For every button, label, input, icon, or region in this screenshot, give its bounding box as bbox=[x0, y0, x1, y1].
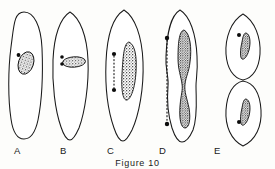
panel-label-e: E bbox=[214, 145, 221, 156]
panel-c: C bbox=[106, 10, 143, 156]
centriole-b-1 bbox=[60, 55, 64, 59]
panel-d: D bbox=[159, 10, 197, 156]
centriole-d-1 bbox=[165, 36, 169, 40]
centriole-b-2 bbox=[60, 62, 64, 66]
panel-label-c: C bbox=[107, 145, 114, 156]
cell-outline-a bbox=[9, 12, 43, 139]
panel-b: B bbox=[53, 12, 88, 156]
panel-label-d: D bbox=[159, 145, 166, 156]
figure-10-illustration: A B C D E Figure 10 bbox=[0, 0, 275, 169]
centriole-a-1 bbox=[17, 53, 21, 57]
panel-a: A bbox=[9, 12, 43, 156]
centriole-c-1 bbox=[112, 52, 116, 56]
figure-caption: Figure 10 bbox=[115, 158, 159, 168]
cell-outline-b bbox=[53, 12, 88, 140]
centriole-e-upper bbox=[237, 33, 241, 37]
centriole-d-2 bbox=[165, 122, 169, 126]
panel-label-b: B bbox=[60, 145, 67, 156]
centriole-c-2 bbox=[112, 88, 116, 92]
centriole-e-lower bbox=[237, 120, 241, 124]
panel-label-a: A bbox=[14, 145, 21, 156]
panel-e: E bbox=[214, 14, 261, 156]
